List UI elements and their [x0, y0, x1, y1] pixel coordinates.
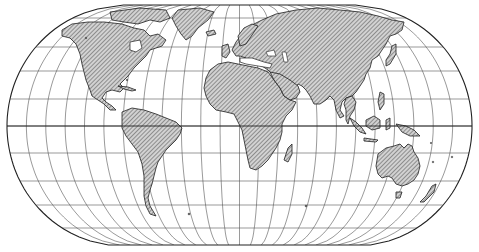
- island-dot: [126, 79, 128, 81]
- island-dot: [451, 156, 453, 158]
- island-dot: [430, 142, 431, 143]
- landmass-iceland: [206, 30, 216, 36]
- landmass-north-america: [62, 22, 166, 110]
- island-dot: [432, 161, 434, 163]
- landmass-great-britain: [222, 44, 230, 58]
- landmass-borneo: [366, 116, 380, 130]
- island-kerguelen: [305, 205, 307, 207]
- landmass-philippines: [378, 92, 384, 110]
- landmass-sulawesi: [386, 118, 390, 130]
- landmass-java: [364, 138, 378, 142]
- landmass-arctic-islands: [110, 8, 170, 24]
- landmass-tasmania: [396, 192, 402, 198]
- island-dot: [85, 37, 87, 39]
- meridian-line: [201, 5, 220, 245]
- landmass-southeast-asia: [344, 96, 356, 124]
- meridian-line: [220, 5, 230, 245]
- landmass-south-america: [122, 108, 182, 216]
- map-canvas: [0, 0, 479, 252]
- world-map: [0, 0, 479, 252]
- island-falklands: [188, 213, 190, 215]
- landmass-australia: [376, 144, 420, 186]
- landmass-new-zealand: [420, 184, 436, 202]
